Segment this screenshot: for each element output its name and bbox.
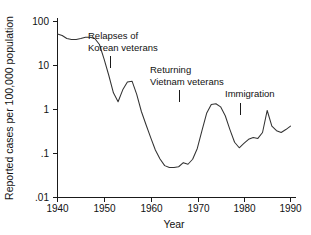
data-series-line: [58, 34, 291, 168]
annotations-group: Relapses ofKorean veteransReturningVietn…: [88, 30, 275, 115]
malaria-incidence-line-chart: 100 10 1 .1 .01 1940 1950 1960 1970 1980…: [0, 0, 311, 235]
annotation-label-korean-veterans: Relapses ofKorean veterans: [88, 30, 158, 53]
annotation-label-immigration: Immigration: [225, 88, 275, 99]
x-tick-label-1990: 1990: [279, 203, 302, 214]
x-tick-label-1970: 1970: [187, 203, 210, 214]
y-axis-ticks: [53, 22, 58, 198]
y-tick-label-1: 1: [43, 104, 49, 115]
y-tick-label-0.01: .01: [35, 192, 49, 203]
x-tick-label-1940: 1940: [46, 203, 69, 214]
y-tick-label-10: 10: [38, 60, 50, 71]
x-axis-ticks: [58, 198, 291, 203]
x-tick-label-1950: 1950: [93, 203, 116, 214]
annotation-label-vietnam-veterans: ReturningVietnam veterans: [150, 64, 224, 87]
y-axis-title: Reported cases per 100,000 population: [3, 16, 15, 200]
y-tick-label-100: 100: [32, 16, 49, 27]
chart-figure: 100 10 1 .1 .01 1940 1950 1960 1970 1980…: [0, 0, 311, 235]
x-axis-title: Year: [163, 218, 185, 230]
x-tick-label-1960: 1960: [140, 203, 163, 214]
y-tick-label-0.1: .1: [41, 148, 50, 159]
x-tick-label-1980: 1980: [233, 203, 256, 214]
